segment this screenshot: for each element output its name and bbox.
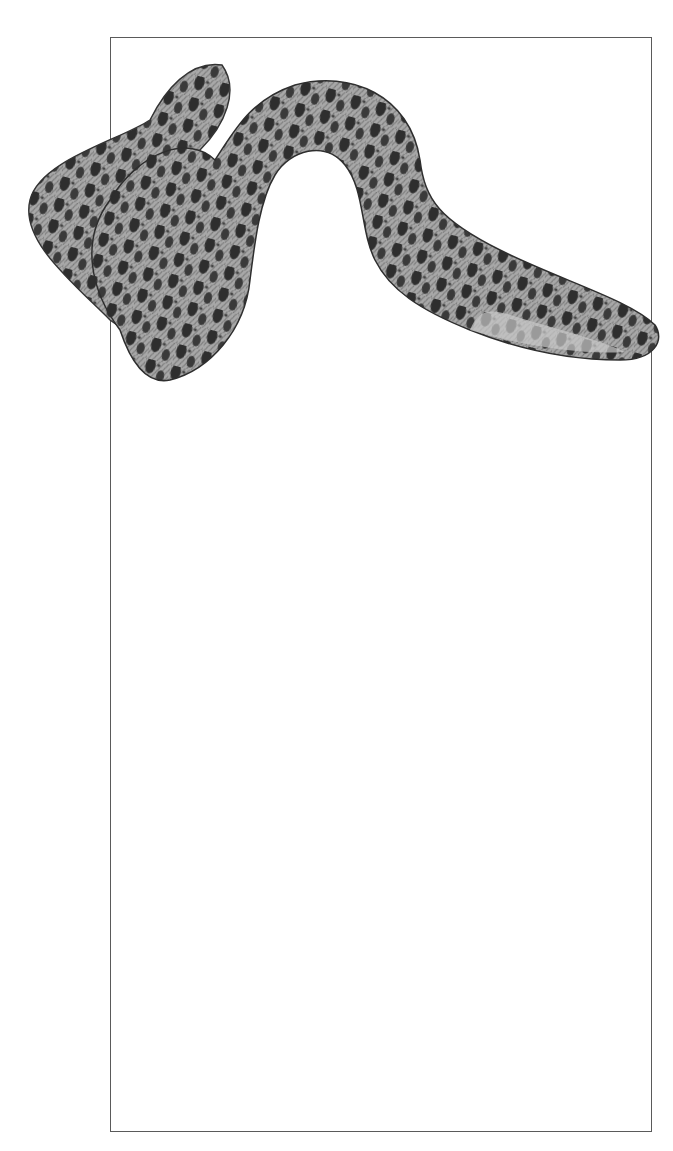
lamprey-illustrations [0,0,673,1151]
sea-lamprey-illustration [29,64,659,380]
